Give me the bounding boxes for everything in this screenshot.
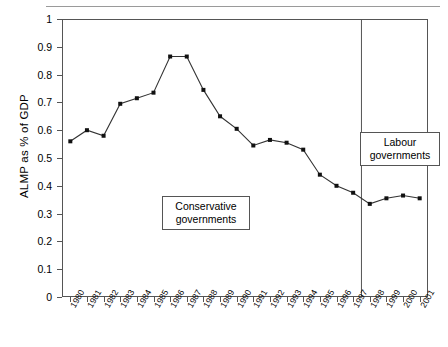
- data-point-1995: [318, 173, 322, 177]
- data-point-1990: [235, 127, 239, 131]
- data-point-1984: [135, 96, 139, 100]
- data-point-2001: [418, 196, 422, 200]
- data-point-1983: [118, 102, 122, 106]
- data-point-1982: [102, 134, 106, 138]
- annotation-line-2: governments: [366, 149, 434, 162]
- data-point-1994: [301, 148, 305, 152]
- annotation-line-1: Labour: [366, 136, 434, 149]
- data-point-1986: [168, 55, 172, 59]
- data-point-1991: [251, 143, 255, 147]
- data-point-1987: [185, 55, 189, 59]
- annotation-line-1: Conservative: [168, 200, 244, 213]
- annotation-line-2: governments: [168, 213, 244, 226]
- data-point-1993: [285, 141, 289, 145]
- series-line-almp: [70, 57, 419, 204]
- chart-figure: ALMP as % of GDP 1 0.9 0.8 0.7 0.6 0.5 0…: [0, 0, 448, 347]
- data-point-1980: [68, 139, 72, 143]
- annotation-labour-governments: Labour governments: [360, 132, 440, 166]
- data-point-1992: [268, 138, 272, 142]
- data-point-1989: [218, 114, 222, 118]
- annotation-conservative-governments: Conservative governments: [162, 196, 250, 230]
- data-point-1997: [351, 191, 355, 195]
- data-point-1999: [384, 196, 388, 200]
- data-point-1985: [152, 91, 156, 95]
- data-point-1996: [335, 184, 339, 188]
- data-point-1981: [85, 128, 89, 132]
- data-point-2000: [401, 194, 405, 198]
- data-point-1988: [201, 88, 205, 92]
- data-point-1998: [368, 202, 372, 206]
